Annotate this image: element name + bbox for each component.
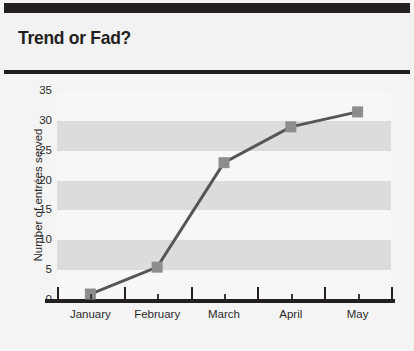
x-axis-minor-tick <box>291 294 293 299</box>
x-axis-major-tick <box>391 287 393 299</box>
x-axis-minor-tick <box>157 294 159 299</box>
x-axis-minor-tick <box>90 294 92 299</box>
x-axis-major-tick <box>324 287 326 299</box>
data-point-marker <box>152 262 163 273</box>
x-axis-minor-tick <box>358 294 360 299</box>
series-line <box>90 112 357 294</box>
chart-region: Number of entrées served 05101520253035 … <box>0 74 414 351</box>
x-axis-minor-tick <box>224 294 226 299</box>
x-axis-tick-label: January <box>70 308 111 320</box>
x-axis-tick-label: April <box>279 308 302 320</box>
x-axis-major-tick <box>57 287 59 299</box>
x-axis-tick-label: February <box>134 308 180 320</box>
data-point-marker <box>352 106 363 117</box>
page-title: Trend or Fad? <box>18 27 131 49</box>
data-point-marker <box>219 157 230 168</box>
x-axis-tick-label: March <box>208 308 240 320</box>
x-axis-major-tick <box>124 287 126 299</box>
data-point-marker <box>285 121 296 132</box>
x-axis-tick-label: May <box>347 308 369 320</box>
x-axis-major-tick <box>191 287 193 299</box>
x-axis-major-tick <box>257 287 259 299</box>
top-divider-rule <box>4 3 410 13</box>
